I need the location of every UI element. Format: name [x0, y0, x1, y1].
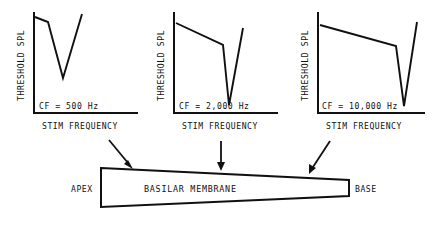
panel-500hz-ylabel: THRESHOLD SPL	[16, 30, 26, 101]
panel-2000hz-tuning-curve	[176, 23, 243, 105]
mapping-arrow-middle	[217, 141, 225, 171]
panel-10000hz-xlabel: STIM FREQUENCY	[326, 121, 402, 131]
panel-2000hz-ylabel: THRESHOLD SPL	[156, 30, 166, 101]
panel-500hz-xlabel: STIM FREQUENCY	[42, 121, 118, 131]
panel-2000hz-xlabel: STIM FREQUENCY	[182, 121, 258, 131]
base-label: BASE	[355, 184, 377, 194]
panel-10000hz-ylabel: THRESHOLD SPL	[300, 30, 310, 101]
panel-500hz-tuning-curve	[35, 14, 82, 78]
basilar-membrane-label: BASILAR MEMBRANE	[144, 184, 237, 194]
arrow-head-middle	[217, 162, 225, 171]
panel-2000hz-cf-label: CF = 2,000 Hz	[179, 101, 250, 111]
apex-label: APEX	[71, 184, 93, 194]
mapping-arrow-base	[309, 141, 330, 174]
panel-10000hz-cf-label: CF = 10,000 Hz	[322, 101, 398, 111]
panel-500hz: THRESHOLD SPL CF = 500 Hz STIM FREQUENCY	[16, 13, 137, 131]
panel-2000hz: THRESHOLD SPL CF = 2,000 Hz STIM FREQUEN…	[156, 13, 277, 131]
basilar-membrane-diagram: BASILAR MEMBRANE APEX BASE	[71, 168, 377, 207]
panel-500hz-cf-label: CF = 500 Hz	[39, 101, 99, 111]
arrow-head-apex	[124, 160, 133, 169]
panel-10000hz-tuning-curve	[320, 22, 417, 106]
mapping-arrow-apex	[109, 140, 133, 169]
panel-10000hz: THRESHOLD SPL CF = 10,000 Hz STIM FREQUE…	[300, 13, 424, 131]
tuning-curve-basilar-membrane-figure: THRESHOLD SPL CF = 500 Hz STIM FREQUENCY…	[0, 0, 434, 226]
